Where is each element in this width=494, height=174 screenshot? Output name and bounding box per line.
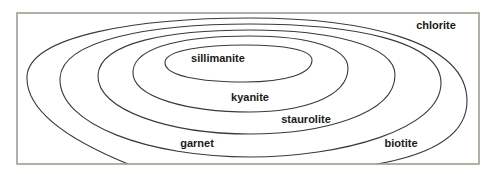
label-chlorite: chlorite: [416, 19, 456, 31]
label-garnet: garnet: [180, 137, 214, 149]
label-kyanite: kyanite: [231, 91, 269, 103]
label-sillimanite: sillimanite: [191, 52, 245, 64]
label-staurolite: staurolite: [281, 113, 331, 125]
zone-labels: chlorite biotite garnet staurolite kyani…: [180, 19, 456, 149]
metamorphic-zone-diagram: chlorite biotite garnet staurolite kyani…: [0, 0, 494, 174]
label-biotite: biotite: [385, 137, 418, 149]
